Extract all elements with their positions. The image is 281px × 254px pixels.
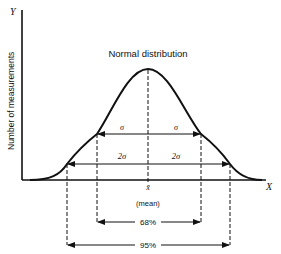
- ninety-five-percent-label: 95%: [140, 241, 156, 250]
- mean-label: (mean): [136, 199, 160, 208]
- bell-curve: [30, 69, 262, 180]
- y-axis-label: Number of measurements: [6, 52, 16, 150]
- right-two-sigma-label: 2σ: [172, 151, 181, 161]
- sixty-eight-percent-label: 68%: [140, 218, 156, 227]
- normal-distribution-diagram: Y X Number of measurements Normal distri…: [0, 0, 281, 254]
- y-axis-letter: Y: [10, 6, 17, 17]
- left-sigma-label: σ: [120, 123, 125, 132]
- right-sigma-label: σ: [174, 123, 179, 132]
- x-axis-letter: X: [265, 181, 273, 192]
- chart-title: Normal distribution: [108, 48, 187, 59]
- mean-symbol: x̄: [145, 183, 150, 192]
- left-two-sigma-label: 2σ: [118, 151, 127, 161]
